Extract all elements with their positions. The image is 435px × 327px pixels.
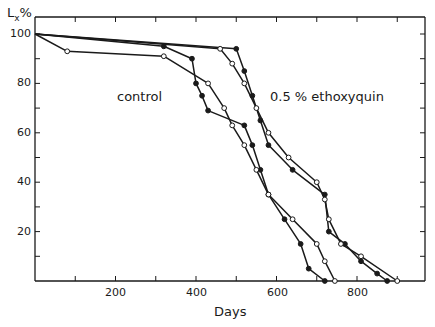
filled-circle-marker (234, 46, 239, 51)
open-circle-marker (266, 130, 271, 135)
open-circle-marker (230, 61, 235, 66)
open-circle-marker (339, 242, 344, 247)
filled-circle-marker (242, 123, 247, 128)
filled-circle-marker (385, 279, 390, 284)
open-circle-marker (332, 279, 337, 284)
filled-circle-marker (322, 279, 327, 284)
filled-circle-marker (290, 167, 295, 172)
open-circle-marker (230, 123, 235, 128)
x-tick-400: 400 (186, 286, 207, 299)
ethoxyquin-annotation: 0.5 % ethoxyquin (270, 89, 384, 104)
y-tick-80: 80 (17, 76, 31, 89)
open-circle-marker (314, 180, 319, 185)
y-tick-60: 60 (17, 126, 31, 139)
filled-circle-marker (298, 242, 303, 247)
filled-circle-marker (375, 271, 380, 276)
y-tick-40: 40 (17, 175, 31, 188)
filled-circle-marker (282, 217, 287, 222)
control-annotation: control (117, 89, 162, 104)
x-tick-800: 800 (347, 286, 368, 299)
open-circle-marker (65, 49, 70, 54)
open-circle-marker (254, 106, 259, 111)
y-tick-100: 100 (10, 27, 31, 40)
open-circle-marker (322, 197, 327, 202)
x-tick-200: 200 (105, 286, 126, 299)
filled-circle-marker (200, 93, 205, 98)
open-circle-marker (286, 155, 291, 160)
open-circle-marker (242, 81, 247, 86)
open-circle-marker (242, 143, 247, 148)
filled-circle-marker (359, 259, 364, 264)
open-circle-marker (218, 46, 223, 51)
x-tick-600: 600 (267, 286, 288, 299)
filled-circle-marker (266, 143, 271, 148)
open-circle-marker (161, 54, 166, 59)
y-tick-20: 20 (17, 225, 31, 238)
open-circle-marker (222, 106, 227, 111)
filled-circle-marker (306, 266, 311, 271)
filled-circle-marker (326, 229, 331, 234)
filled-circle-marker (242, 69, 247, 74)
open-circle-marker (359, 254, 364, 259)
series-line-2 (35, 34, 387, 281)
y-axis-label: Lx% (7, 5, 32, 23)
open-circle-marker (395, 279, 400, 284)
open-circle-marker (322, 259, 327, 264)
survival-chart (0, 0, 435, 327)
filled-circle-marker (194, 81, 199, 86)
open-circle-marker (266, 192, 271, 197)
open-circle-marker (254, 167, 259, 172)
open-circle-marker (314, 242, 319, 247)
filled-circle-marker (206, 108, 211, 113)
filled-circle-marker (250, 143, 255, 148)
open-circle-marker (206, 81, 211, 86)
x-axis-label: Days (214, 304, 246, 319)
open-circle-marker (326, 217, 331, 222)
filled-circle-marker (190, 56, 195, 61)
open-circle-marker (290, 217, 295, 222)
